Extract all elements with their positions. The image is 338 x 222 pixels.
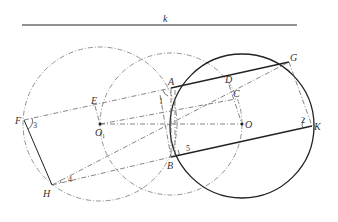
angle-label-1: 1 [159,97,163,106]
angle-arc-5 [178,150,179,155]
label-A: A [167,76,175,87]
angle-arc-1 [163,90,168,96]
label-F: F [14,115,22,126]
segment-O1C [100,99,236,124]
point-O1 [99,123,102,126]
label-k: k [163,13,168,24]
label-G: G [290,52,297,63]
angle-arc-3 [28,118,33,129]
label-E: E [90,95,97,106]
segment-FA [24,88,171,120]
angle-label-3: 3 [33,121,37,130]
angle-label-5: 5 [186,144,190,153]
geometry-diagram: k A B C D E F G H K O O 1 [0,0,338,222]
point-O [241,123,244,126]
label-H: H [42,188,51,199]
angle-label-4: 4 [68,175,72,184]
label-O: O [245,119,252,130]
angle-label-2: 2 [301,116,305,125]
label-D: D [224,74,233,85]
segment-EO1 [95,106,100,124]
angle-arc-4 [60,180,61,183]
segment-BK [171,126,312,157]
label-O1-subscript: 1 [102,133,105,139]
label-C: C [233,88,240,99]
label-B: B [167,160,173,171]
label-K: K [313,121,322,132]
